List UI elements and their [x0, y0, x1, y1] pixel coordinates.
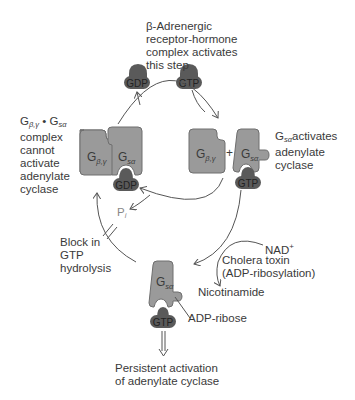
- nicotinamide-label: Nicotinamide: [198, 286, 264, 299]
- receptor-note: β-Adrenergic receptor-hormone complex ac…: [146, 20, 237, 72]
- pi-label: Pi: [117, 206, 126, 222]
- svg-text:GTP: GTP: [153, 317, 174, 328]
- outcome-arrow: [159, 331, 168, 356]
- pi-release-arrow: [130, 195, 150, 209]
- plus-sign: +: [226, 146, 233, 160]
- outcome-note: Persistent activation of adenylate cycla…: [115, 362, 219, 388]
- adp-ribose-label: ADP-ribose: [188, 312, 247, 325]
- gbg-subunit: Gβ,γ: [189, 129, 225, 173]
- gsa-activates-note: Gsαactivates adenylate cyclase: [275, 130, 337, 172]
- svg-text:GTP: GTP: [238, 178, 259, 189]
- gsa-gtp-active: Gsα GTP: [233, 129, 269, 189]
- hydrolysis-arrow: [140, 178, 223, 199]
- svg-text:GDP: GDP: [115, 180, 137, 191]
- svg-text:GTP: GTP: [179, 78, 200, 89]
- svg-text:GDP: GDP: [126, 78, 148, 89]
- gsa-adp-ribosylated: Gsα GTP: [149, 261, 182, 328]
- inactive-complex-note: Gβ,γ • Gsα complex cannot activate adeny…: [20, 115, 70, 196]
- gbg-gsa-complex: Gβ,γ Gsα GDP: [80, 127, 142, 191]
- cholera-path-arrow: [194, 190, 241, 264]
- block-note: Block in GTP hydrolysis: [60, 236, 111, 275]
- cholera-note: Cholera toxin (ADP-ribosylation): [222, 254, 315, 280]
